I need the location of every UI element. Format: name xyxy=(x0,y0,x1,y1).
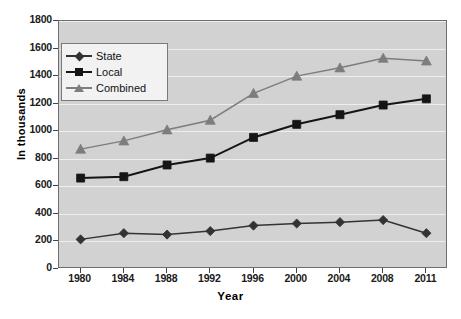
data-point xyxy=(422,95,430,103)
legend-item-combined[interactable]: Combined xyxy=(66,80,162,96)
y-tick-label: 0 xyxy=(6,261,52,273)
legend-marker-square-icon xyxy=(66,65,92,79)
legend-marker xyxy=(74,84,84,92)
data-point xyxy=(379,215,388,224)
legend-marker xyxy=(75,52,85,62)
x-tick-label: 1992 xyxy=(186,272,232,284)
y-tick-label: 400 xyxy=(6,206,52,218)
data-point xyxy=(77,174,85,182)
data-point xyxy=(162,230,171,239)
x-tick-mark xyxy=(209,268,210,273)
y-tick-label: 1800 xyxy=(6,13,52,25)
data-point xyxy=(249,221,258,230)
legend-label: Combined xyxy=(96,82,146,94)
data-point xyxy=(120,173,128,181)
data-point xyxy=(250,133,258,141)
x-tick-mark xyxy=(425,268,426,273)
data-point xyxy=(249,88,259,97)
data-point xyxy=(206,154,214,162)
x-tick-label: 2008 xyxy=(359,272,405,284)
data-point xyxy=(163,161,171,169)
x-tick-mark xyxy=(166,268,167,273)
x-tick-label: 1988 xyxy=(143,272,189,284)
y-tick-mark xyxy=(53,268,58,269)
x-tick-mark xyxy=(339,268,340,273)
x-tick-label: 1996 xyxy=(230,272,276,284)
line-chart: In thousands 020040060080010001200140016… xyxy=(0,0,461,319)
x-tick-mark xyxy=(80,268,81,273)
series-local xyxy=(77,95,431,182)
legend-marker xyxy=(75,68,83,76)
data-point xyxy=(379,101,387,109)
x-tick-mark xyxy=(296,268,297,273)
data-point xyxy=(335,218,344,227)
x-tick-mark xyxy=(123,268,124,273)
x-tick-label: 1980 xyxy=(57,272,103,284)
legend-item-state[interactable]: State xyxy=(66,48,162,64)
y-tick-label: 1200 xyxy=(6,96,52,108)
y-tick-label: 600 xyxy=(6,178,52,190)
legend-marker-diamond-icon xyxy=(66,49,92,63)
y-tick-label: 1400 xyxy=(6,68,52,80)
legend-label: Local xyxy=(96,66,122,78)
y-tick-label: 1600 xyxy=(6,41,52,53)
legend-marker-triangle-icon xyxy=(66,81,92,95)
data-point xyxy=(119,229,128,238)
y-tick-label: 1000 xyxy=(6,123,52,135)
y-tick-label: 200 xyxy=(6,233,52,245)
chart-legend: StateLocalCombined xyxy=(61,43,168,101)
series-state xyxy=(76,215,431,243)
x-tick-mark xyxy=(382,268,383,273)
x-tick-label: 2011 xyxy=(402,272,448,284)
data-point xyxy=(293,120,301,128)
data-point xyxy=(76,235,85,244)
legend-label: State xyxy=(96,50,122,62)
data-point xyxy=(336,111,344,119)
x-axis-title: Year xyxy=(0,290,461,302)
data-point xyxy=(422,229,431,238)
legend-item-local[interactable]: Local xyxy=(66,64,162,80)
x-tick-mark xyxy=(253,268,254,273)
x-tick-label: 2004 xyxy=(316,272,362,284)
data-point xyxy=(205,115,215,124)
data-point xyxy=(292,219,301,228)
y-tick-label: 800 xyxy=(6,151,52,163)
data-point xyxy=(206,227,215,236)
x-tick-label: 2000 xyxy=(273,272,319,284)
x-tick-label: 1984 xyxy=(100,272,146,284)
